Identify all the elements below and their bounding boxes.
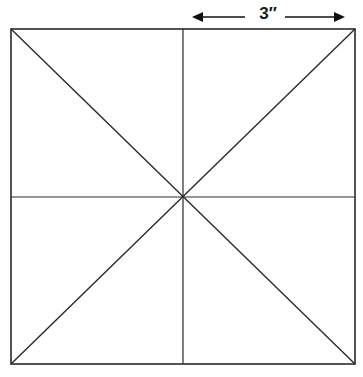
pattern-diagram — [0, 0, 363, 377]
dimension-arrow-left — [192, 12, 245, 22]
dimension-arrow-right — [285, 12, 345, 22]
dimension-label: 3″ — [248, 4, 288, 24]
